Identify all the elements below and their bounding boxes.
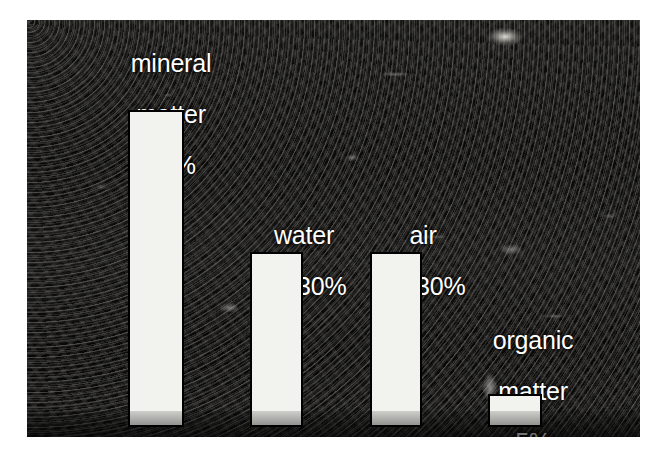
label-air-value: 20-30% xyxy=(342,274,504,300)
bar-air xyxy=(370,252,422,427)
label-organic-matter-value: 5% xyxy=(461,430,605,438)
soil-composition-figure: mineral matter 45% water 20-30% air 20-3… xyxy=(0,0,664,457)
label-mineral-matter-line1: mineral xyxy=(103,51,239,77)
bar-mineral-matter xyxy=(128,110,184,427)
bar-organic-matter xyxy=(488,394,542,427)
bar-water xyxy=(250,252,303,427)
label-organic-matter-line1: organic xyxy=(461,328,605,354)
soil-photo-background: mineral matter 45% water 20-30% air 20-3… xyxy=(27,20,640,437)
label-air-line1: air xyxy=(342,223,504,249)
